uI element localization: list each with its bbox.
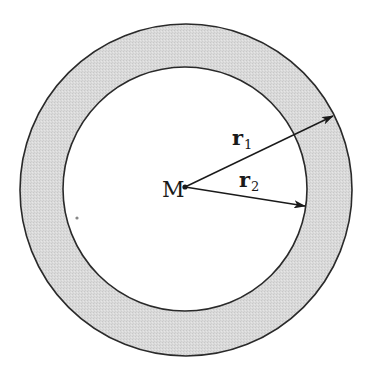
r1-subscript: 1 [244,137,252,152]
r2-symbol: r [239,167,251,192]
r2-subscript: 2 [251,179,259,194]
r1-symbol: r [232,125,244,150]
spherical-shell-diagram: M r1 r2 [0,0,387,387]
stray-dot [75,216,78,219]
center-label: M [162,177,185,202]
